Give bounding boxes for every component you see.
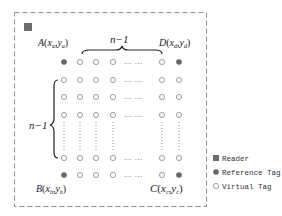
legend-label-virtual-tag: Virtual Tag (222, 183, 272, 191)
virtual-tag-icon (61, 94, 66, 99)
legend: Reader Reference Tag Virtual Tag (213, 155, 281, 191)
reference-tag-icon (176, 172, 182, 178)
reference-tag-dot-icon (213, 169, 219, 175)
corner-label-b: B(xb,yb) (36, 183, 66, 195)
virtual-tag-circle-icon (213, 183, 218, 188)
horizontal-ellipsis: … … (124, 170, 143, 179)
virtual-tag-icon (77, 59, 82, 64)
virtual-tag-icon (77, 94, 82, 99)
virtual-tag-icon (159, 112, 164, 117)
reader-square-icon (213, 155, 219, 161)
corner-label-a: A(xa,ya) (37, 37, 68, 49)
virtual-tag-icon (159, 172, 164, 177)
top-brace-label: n−1 (110, 33, 128, 45)
reference-tag-icon (176, 59, 182, 65)
legend-label-reader: Reader (222, 155, 249, 163)
virtual-tag-icon (61, 112, 66, 117)
corner-label-c: C(xc,yc) (150, 182, 183, 195)
virtual-tag-icon (93, 59, 98, 64)
corner-label-d: D(xd,yd) (158, 37, 190, 49)
virtual-tag-icon (93, 172, 98, 177)
virtual-tag-icon (110, 155, 115, 160)
virtual-tag-icon (110, 172, 115, 177)
reference-tag-icon (61, 59, 67, 65)
virtual-tag-icon (159, 77, 164, 82)
virtual-tag-icon (93, 94, 98, 99)
virtual-tag-icon (110, 59, 115, 64)
virtual-tag-icon (77, 112, 82, 117)
virtual-tag-icon (110, 94, 115, 99)
virtual-tag-icon (61, 155, 66, 160)
horizontal-ellipsis: … … (124, 75, 143, 84)
virtual-tag-icon (176, 112, 181, 117)
horizontal-ellipsis: … … (124, 153, 143, 162)
virtual-tag-icon (159, 94, 164, 99)
reference-tag-icon (61, 172, 67, 178)
virtual-tag-icon (176, 94, 181, 99)
virtual-tag-icon (176, 155, 181, 160)
horizontal-ellipsis: … … (124, 92, 143, 101)
virtual-tag-icon (159, 59, 164, 64)
horizontal-ellipsis: … … (124, 110, 143, 119)
virtual-tag-icon (77, 77, 82, 82)
legend-label-reference-tag: Reference Tag (222, 169, 281, 177)
reader-icon (24, 23, 32, 31)
virtual-tag-icon (110, 77, 115, 82)
tag-grid: … …… …… …… …… …… … (61, 57, 182, 179)
virtual-tag-icon (77, 172, 82, 177)
virtual-tag-icon (110, 112, 115, 117)
virtual-tag-icon (159, 155, 164, 160)
left-brace-label: n−1 (29, 119, 47, 131)
virtual-tag-icon (93, 155, 98, 160)
top-brace (82, 46, 162, 54)
virtual-tag-icon (93, 77, 98, 82)
virtual-tag-icon (176, 77, 181, 82)
horizontal-ellipsis: … … (124, 57, 143, 66)
virtual-tag-icon (93, 112, 98, 117)
virtual-tag-icon (77, 155, 82, 160)
virtual-tag-icon (61, 77, 66, 82)
left-brace (50, 80, 58, 158)
rfid-grid-diagram: A(xa,ya) D(xd,yd) B(xb,yb) C(xc,yc) n−1 … (0, 0, 282, 216)
